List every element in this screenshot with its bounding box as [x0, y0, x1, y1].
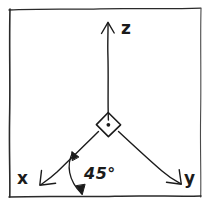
angle-value-label: 45°: [84, 166, 116, 182]
border-right-line: [200, 9, 201, 197]
y-axis-line: [119, 132, 181, 184]
y-axis-label: y: [184, 170, 195, 187]
z-axis-label: z: [121, 20, 131, 37]
border-left-line: [9, 9, 10, 197]
figure-canvas: z x y 45°: [0, 0, 211, 210]
z-axis-line: [108, 23, 109, 120]
x-axis-label: x: [17, 170, 28, 187]
y-axis: [119, 132, 182, 185]
z-axis: [102, 22, 115, 120]
angle-arc-arrowhead-upper: [72, 152, 79, 161]
border-bottom-line: [9, 196, 201, 197]
origin-dot-icon: [107, 123, 111, 127]
border-top-line: [9, 8, 201, 10]
